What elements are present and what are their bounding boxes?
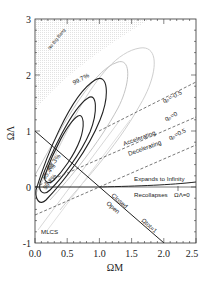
x-tick-2-5: 2.5: [186, 248, 199, 259]
y-tick-labels: 3 2 1 0 -1: [23, 14, 31, 249]
x-axis-title: ΩM: [107, 262, 123, 273]
x-tick-0-5: 0.5: [61, 248, 74, 259]
y-tick-2: 2: [26, 70, 31, 81]
x-tick-1: 1.0: [93, 248, 106, 259]
contour-label-99-7-top: 99.7%: [71, 71, 90, 86]
recollapses-label: Recollapses: [134, 191, 168, 198]
q0-neg-label: q₀=-0.5: [161, 88, 183, 103]
omega-lambda-zero-label: ΩΛ=0: [174, 191, 190, 198]
no-big-bang-region: [35, 19, 150, 110]
y-tick-0: 0: [26, 182, 31, 193]
chart: 3 2 1 0 -1 0.0 0.5 1.0 1.5 2.0 2.5 ΩM ΩΛ…: [0, 0, 209, 285]
x-tick-2: 2.0: [158, 248, 171, 259]
mlcs-label: MLCS: [41, 228, 58, 235]
q0-zero-label: q₀=0: [163, 110, 178, 122]
y-tick-1: 1: [26, 126, 31, 137]
expands-label: Expands to Infinity: [134, 175, 185, 182]
x-tick-labels: 0.0 0.5 1.0 1.5 2.0 2.5: [29, 248, 199, 259]
x-tick-0: 0.0: [29, 248, 42, 259]
y-tick-3: 3: [26, 14, 31, 25]
y-axis-title: ΩΛ: [5, 125, 16, 140]
x-tick-1-5: 1.5: [125, 248, 138, 259]
